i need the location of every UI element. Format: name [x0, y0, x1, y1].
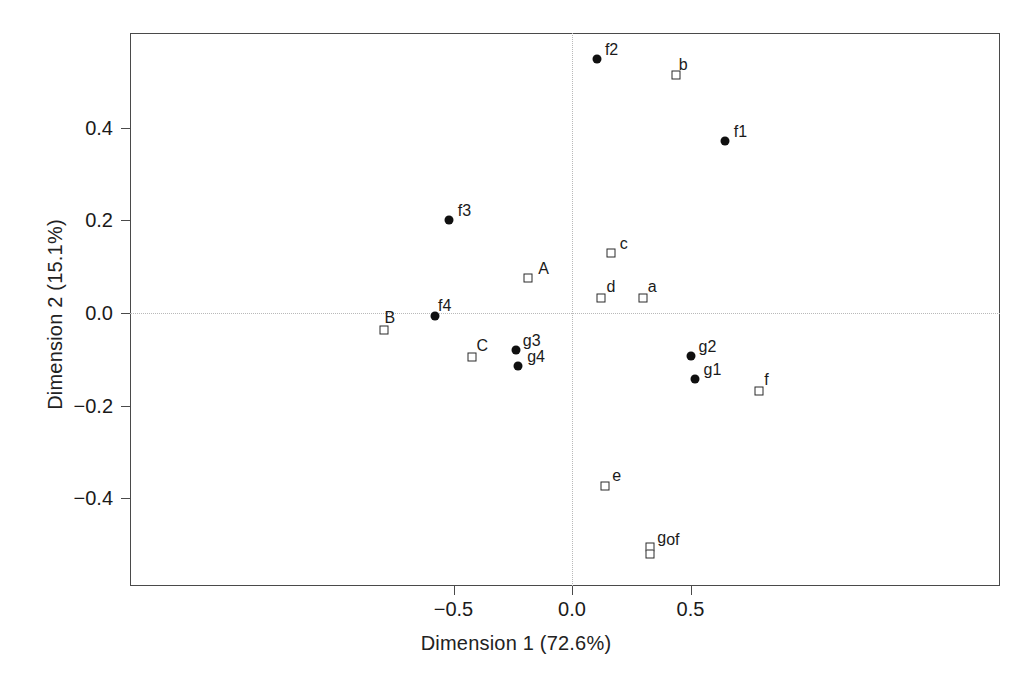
- data-point-label-f1: f1: [734, 124, 747, 140]
- scatter-plot-figure: −0.50.00.50.40.20.0−0.2−0.4 f2f1f3f4g3g4…: [0, 0, 1032, 679]
- data-point-label-g: g: [657, 530, 666, 546]
- data-point-g3: [511, 346, 520, 355]
- data-point-label-f4: f4: [438, 298, 451, 314]
- data-point-e: [601, 481, 610, 490]
- data-point-label-e: e: [612, 468, 621, 484]
- y-axis-tick-label: 0.4: [85, 116, 113, 139]
- x-axis-tick-label: 0.5: [677, 598, 705, 621]
- y-axis-tick-label: −0.2: [74, 394, 113, 417]
- y-axis-tick-label: 0.0: [85, 302, 113, 325]
- data-point-label-c: c: [620, 236, 628, 252]
- data-point-label-B: B: [385, 310, 396, 326]
- x-axis-tick-label: 0.0: [558, 598, 586, 621]
- data-point-label-of: of: [666, 532, 679, 548]
- y-axis-tick-label: −0.4: [74, 487, 113, 510]
- data-point-g2: [686, 352, 695, 361]
- data-point-of: [646, 549, 655, 558]
- data-point-label-d: d: [606, 279, 615, 295]
- x-axis-title: Dimension 1 (72.6%): [0, 632, 1032, 655]
- x-axis-tick: [691, 586, 692, 595]
- data-point-d: [597, 294, 606, 303]
- plot-frame: [130, 33, 1000, 586]
- data-point-a: [638, 294, 647, 303]
- data-point-g1: [690, 374, 699, 383]
- data-point-label-b: b: [679, 57, 688, 73]
- data-point-B: [379, 326, 388, 335]
- data-point-A: [524, 273, 533, 282]
- data-point-label-g4: g4: [527, 349, 545, 365]
- data-point-f1: [720, 136, 729, 145]
- data-point-label-g2: g2: [699, 339, 717, 355]
- data-point-f2: [592, 55, 601, 64]
- data-point-label-f: f: [764, 372, 768, 388]
- data-point-f: [755, 386, 764, 395]
- y-axis-tick: [121, 406, 130, 407]
- data-point-label-g1: g1: [704, 362, 722, 378]
- data-point-label-a: a: [648, 279, 657, 295]
- data-point-g4: [514, 361, 523, 370]
- x-axis-tick-label: −0.5: [434, 598, 473, 621]
- data-point-label-A: A: [538, 261, 549, 277]
- data-point-label-g3: g3: [523, 333, 541, 349]
- x-axis-tick: [454, 586, 455, 595]
- y-axis-tick-label: 0.2: [85, 209, 113, 232]
- data-point-f3: [444, 216, 453, 225]
- y-axis-tick: [121, 498, 130, 499]
- y-axis-tick: [121, 128, 130, 129]
- data-point-c: [606, 249, 615, 258]
- data-point-label-f2: f2: [605, 42, 618, 58]
- data-point-label-C: C: [476, 338, 488, 354]
- y-axis-tick: [121, 313, 130, 314]
- y-axis-tick: [121, 220, 130, 221]
- y-axis-title: Dimension 2 (15.1%): [44, 55, 67, 575]
- x-axis-tick: [572, 586, 573, 595]
- data-point-label-f3: f3: [458, 203, 471, 219]
